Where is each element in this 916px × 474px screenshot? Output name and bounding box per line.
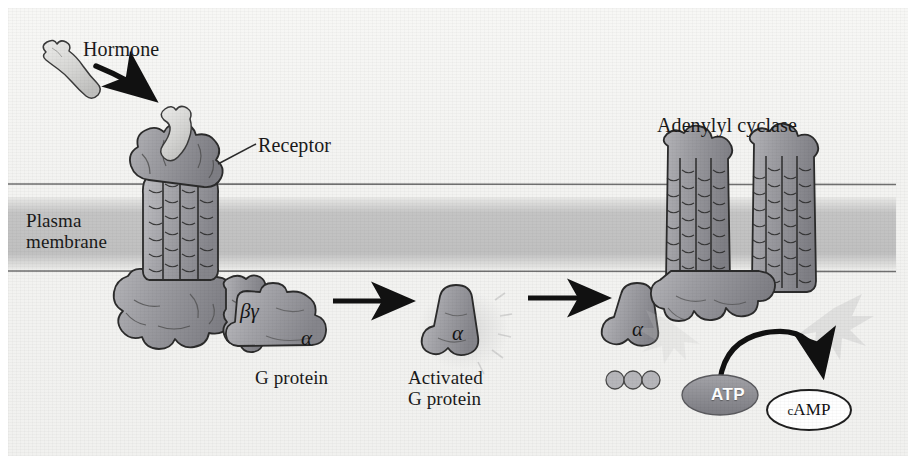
label-beta-gamma: βγ bbox=[239, 299, 259, 323]
cyclase-domain-left bbox=[664, 126, 733, 292]
label-hormone: Hormone bbox=[83, 38, 159, 60]
receptor-leader-line bbox=[218, 144, 256, 164]
label-camp-suffix: AMP bbox=[793, 400, 830, 419]
label-adenylyl-cyclase: Adenylyl cyclase bbox=[657, 114, 797, 136]
figure-page: βγ α α α bbox=[0, 0, 916, 474]
label-alpha-1: α bbox=[301, 326, 313, 350]
label-alpha-2: α bbox=[452, 321, 464, 345]
g-protein-complex: βγ α bbox=[223, 275, 326, 352]
label-atp: ATP bbox=[697, 383, 759, 407]
label-plasma-membrane: Plasma membrane bbox=[26, 210, 107, 253]
activated-g-protein: α bbox=[417, 285, 512, 374]
arrow-hormone-to-receptor bbox=[96, 66, 150, 96]
label-camp: cAMP bbox=[771, 398, 847, 422]
illustration-panel: βγ α α α bbox=[8, 8, 908, 456]
arrow-atp-to-camp bbox=[720, 331, 822, 380]
label-g-protein: G protein bbox=[255, 367, 328, 388]
label-receptor: Receptor bbox=[258, 134, 331, 156]
label-activated-g-protein: Activated G protein bbox=[408, 367, 483, 410]
cyclase-domain-right bbox=[750, 124, 819, 292]
atp-phosphate-groups bbox=[606, 371, 660, 389]
